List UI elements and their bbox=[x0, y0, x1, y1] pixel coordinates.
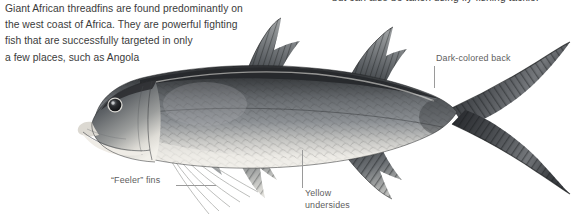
callout-dark-colored-back: Dark-colored back bbox=[436, 53, 511, 65]
callout-yellow-undersides: Yellow undersides bbox=[305, 188, 350, 211]
intro-paragraph: Giant African threadfins are found predo… bbox=[5, 1, 267, 66]
caudal-fin-lower-lobe bbox=[452, 110, 570, 194]
continuation-paragraph: but can also be taken using fly-fishing … bbox=[332, 0, 582, 6]
leader-line-feeler-fins bbox=[176, 185, 216, 186]
illustration-page: Giant African threadfins are found predo… bbox=[0, 0, 587, 220]
leader-line-dark-colored-back bbox=[434, 66, 435, 88]
leader-line-yellow-undersides bbox=[302, 150, 303, 188]
callout-feeler-fins: “Feeler” fins bbox=[111, 175, 160, 187]
